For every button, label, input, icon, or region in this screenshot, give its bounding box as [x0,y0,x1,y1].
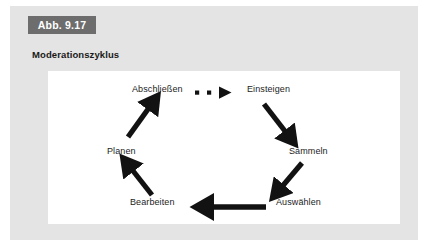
arrow-abschliessen-to-einsteigen [195,87,232,99]
figure-caption: Moderationszyklus [32,49,119,60]
node-label-auswaehlen: Auswählen [276,198,321,207]
figure-root: Abb. 9.17 Moderationszyklus [0,0,428,247]
figure-number-tab: Abb. 9.17 [28,16,96,34]
figure-panel: Abb. 9.17 Moderationszyklus [10,6,418,240]
arrow-planen-to-abschliessen [128,105,151,137]
arrow-bearbeiten-to-planen [130,167,152,195]
node-label-einsteigen: Einsteigen [247,85,290,94]
figure-number-label: Abb. 9.17 [38,19,86,31]
diagram-canvas: Abschließen Einsteigen Sammeln Auswählen… [48,71,400,224]
arrow-einsteigen-to-sammeln [264,104,288,135]
node-label-abschliessen: Abschließen [132,85,183,94]
arrow-sammeln-to-auswaehlen [280,163,302,189]
node-label-sammeln: Sammeln [289,147,328,156]
node-label-bearbeiten: Bearbeiten [130,198,175,207]
cycle-arrows-svg [48,71,400,224]
node-label-planen: Planen [107,147,136,156]
